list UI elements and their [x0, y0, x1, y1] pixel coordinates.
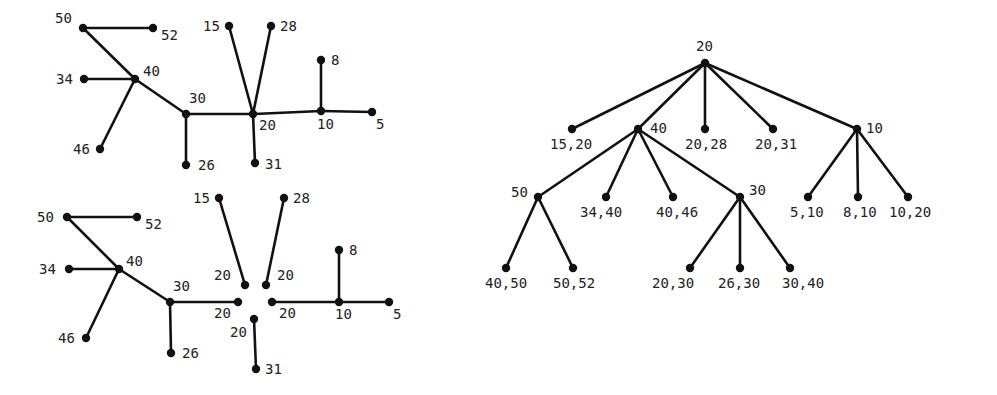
node [249, 110, 257, 118]
node [502, 264, 510, 272]
node-label: 5 [393, 306, 401, 322]
node-label: 40 [126, 253, 143, 269]
edge [83, 28, 135, 79]
edge [67, 217, 119, 269]
edge [506, 197, 538, 268]
node-label: 40,46 [656, 204, 698, 220]
edge [253, 111, 321, 114]
node [569, 264, 577, 272]
edge [538, 197, 573, 268]
node-label: 10 [866, 120, 883, 136]
edge [254, 319, 256, 369]
node [267, 22, 275, 30]
edge [808, 129, 857, 197]
tree-diagram-canvas: 50524034304626201528108531 5052403430462… [0, 0, 997, 395]
node-label: 30 [173, 278, 190, 294]
node-label: 15 [203, 18, 220, 34]
node-label: 30 [749, 182, 766, 198]
node-label: 52 [161, 27, 178, 43]
node-label: 34,40 [580, 204, 622, 220]
node [854, 193, 862, 201]
node-label: 40 [143, 63, 160, 79]
node-label: 34 [56, 71, 73, 87]
node [804, 193, 812, 201]
node [268, 298, 276, 306]
edge [857, 129, 908, 197]
node-label: 50,52 [553, 275, 595, 291]
node [736, 264, 744, 272]
node-label: 15 [193, 190, 210, 206]
node [904, 193, 912, 201]
node [686, 264, 694, 272]
node [317, 56, 325, 64]
edge [857, 129, 858, 197]
node [166, 298, 174, 306]
node [317, 107, 325, 115]
original-tree-graph: 50524034304626201528108531 [55, 10, 384, 173]
node [182, 161, 190, 169]
edge [119, 269, 170, 302]
node-label: 28 [293, 190, 310, 206]
node-label: 20 [696, 38, 713, 54]
node-label: 20 [277, 267, 294, 283]
node [250, 315, 258, 323]
node-label: 20 [214, 305, 231, 321]
edge [638, 63, 705, 129]
node [701, 59, 709, 67]
node-label: 5,10 [790, 204, 824, 220]
edge [321, 111, 372, 112]
node-label: 10,20 [889, 204, 931, 220]
node [96, 145, 104, 153]
edge [740, 197, 790, 268]
node [262, 281, 270, 289]
node-label: 20 [259, 117, 276, 133]
node [786, 264, 794, 272]
node-label: 50 [511, 184, 528, 200]
node [534, 193, 542, 201]
node-label: 28 [280, 18, 297, 34]
node [225, 22, 233, 30]
split-tree-graph: 5052403430462615282020202020311085 [37, 190, 401, 377]
node-label: 31 [265, 361, 282, 377]
node [115, 265, 123, 273]
node [241, 281, 249, 289]
node [634, 125, 642, 133]
node-label: 8 [331, 52, 339, 68]
edge [253, 26, 271, 114]
edge [86, 269, 119, 338]
node-label: 46 [73, 141, 90, 157]
node [385, 298, 393, 306]
node-label: 10 [317, 116, 334, 132]
node [63, 213, 71, 221]
node [769, 125, 777, 133]
node [252, 365, 260, 373]
hierarchical-decomposition-tree: 2015,204020,2820,31105034,4040,46305,108… [485, 38, 931, 291]
node-label: 31 [265, 156, 282, 172]
edge [253, 114, 255, 163]
node-label: 15,20 [550, 136, 592, 152]
node-label: 50 [55, 10, 72, 26]
node-label: 40,50 [485, 275, 527, 291]
node [79, 24, 87, 32]
node [234, 298, 242, 306]
node-label: 5 [376, 116, 384, 132]
node [669, 193, 677, 201]
edge [100, 79, 135, 149]
node-label: 34 [39, 261, 56, 277]
node [80, 75, 88, 83]
node-label: 26 [182, 345, 199, 361]
node [133, 213, 141, 221]
node-label: 30 [189, 90, 206, 106]
node [65, 265, 73, 273]
node [215, 194, 223, 202]
node-label: 20 [230, 324, 247, 340]
node [335, 246, 343, 254]
node-label: 26,30 [718, 275, 760, 291]
node [568, 125, 576, 133]
node [82, 334, 90, 342]
node [853, 125, 861, 133]
node [701, 125, 709, 133]
node [131, 75, 139, 83]
node [280, 194, 288, 202]
node-label: 50 [37, 209, 54, 225]
